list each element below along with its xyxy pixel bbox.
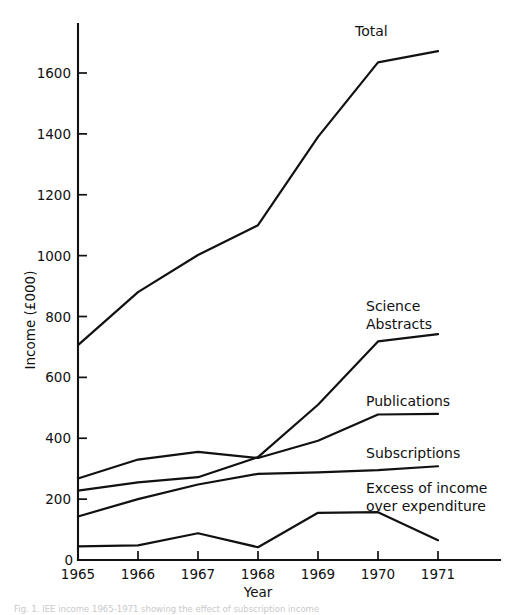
x-axis-title: Year bbox=[243, 584, 273, 600]
y-tick-label-1400: 1400 bbox=[37, 126, 71, 142]
x-tick-label-1967: 1967 bbox=[181, 566, 215, 582]
x-tick-label-1968: 1968 bbox=[241, 566, 275, 582]
x-tick-label-1971: 1971 bbox=[421, 566, 455, 582]
y-tick-label-200: 200 bbox=[45, 491, 71, 507]
series-label-excess-line1: Excess of income bbox=[366, 480, 487, 496]
series-label-publications: Publications bbox=[366, 393, 450, 409]
y-tick-label-600: 600 bbox=[45, 369, 71, 385]
figure-container: 02004006008001000120014001600 1965196619… bbox=[0, 0, 515, 615]
x-tick-label-1966: 1966 bbox=[121, 566, 155, 582]
figure-caption: Fig. 1. IEE income 1965-1971 showing the… bbox=[14, 604, 506, 615]
series-label-science-abstracts-line2: Abstracts bbox=[366, 316, 432, 332]
x-tick-label-1969: 1969 bbox=[301, 566, 335, 582]
y-tick-label-800: 800 bbox=[45, 309, 71, 325]
series-label-excess-line2: over expenditure bbox=[366, 498, 486, 514]
series-label-subscriptions: Subscriptions bbox=[366, 445, 460, 461]
series-label-science-abstracts-line1: Science bbox=[366, 298, 420, 314]
line-chart: 02004006008001000120014001600 1965196619… bbox=[0, 0, 515, 615]
x-tick-label-1970: 1970 bbox=[361, 566, 395, 582]
y-tick-label-1200: 1200 bbox=[37, 187, 71, 203]
y-axis-title: Income (£000) bbox=[22, 271, 38, 370]
y-tick-label-1600: 1600 bbox=[37, 65, 71, 81]
y-tick-label-1000: 1000 bbox=[37, 248, 71, 264]
x-tick-label-1965: 1965 bbox=[61, 566, 95, 582]
y-tick-label-400: 400 bbox=[45, 430, 71, 446]
series-label-total: Total bbox=[354, 23, 388, 39]
